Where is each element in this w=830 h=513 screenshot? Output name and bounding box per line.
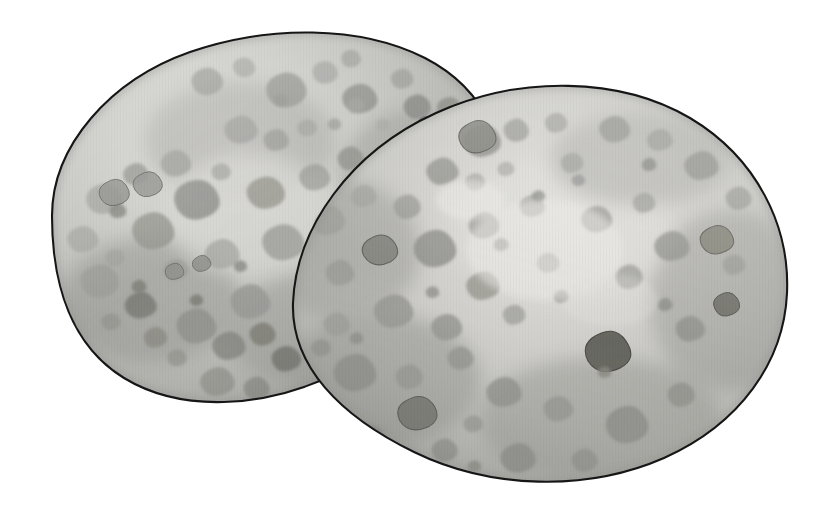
illustration-canvas: Two speckled bird eggs [0, 0, 830, 513]
eggs-illustration: Two speckled bird eggs [0, 0, 830, 513]
